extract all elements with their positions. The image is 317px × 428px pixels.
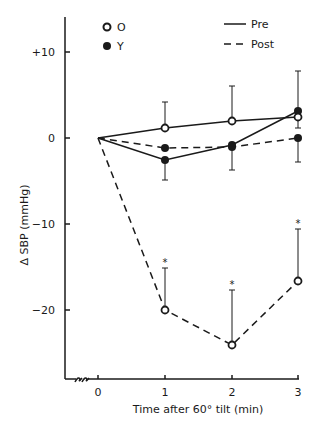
- legend-label-o: O: [117, 21, 126, 34]
- axis-break-icon: [75, 378, 89, 382]
- legend-filled-circle-icon: [103, 42, 111, 50]
- legend-label-pre: Pre: [251, 18, 269, 31]
- x-axis-title: Time after 60° tilt (min): [132, 403, 264, 416]
- significance-star: *: [230, 279, 235, 290]
- x-tick-label: 1: [162, 386, 169, 399]
- x-tick-label: 3: [295, 386, 302, 399]
- significance-star: *: [296, 218, 301, 229]
- y-axis-title: Δ SBP (mmHg): [18, 185, 31, 266]
- sbp-line-chart: +10 0 −10 −20 0 1 2 3 Time after 60° til…: [0, 0, 317, 428]
- series-o-post-line: [98, 138, 298, 345]
- series-y-post-line: [98, 138, 298, 148]
- y-tick-label: +10: [32, 46, 55, 59]
- legend-open-circle-icon: [104, 24, 111, 31]
- x-tick-label: 0: [95, 386, 102, 399]
- error-bars: [162, 71, 301, 345]
- legend: O Y Pre Post: [103, 18, 275, 53]
- legend-label-y: Y: [116, 40, 124, 53]
- series-o-pre-line: [98, 117, 298, 138]
- y-tick-label: −10: [32, 218, 55, 231]
- y-tick-label: 0: [48, 132, 55, 145]
- x-tick-label: 2: [229, 386, 236, 399]
- legend-label-post: Post: [251, 38, 275, 51]
- y-tick-label: −20: [32, 304, 55, 317]
- significance-star: *: [163, 257, 168, 268]
